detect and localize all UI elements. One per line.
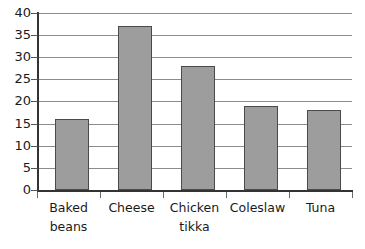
y-tick-mark-20 xyxy=(31,101,38,102)
y-tick-label-30: 30 xyxy=(1,50,31,63)
gridline-40 xyxy=(37,13,352,14)
gridline-35 xyxy=(37,35,352,36)
y-tick-mark-0 xyxy=(31,190,38,191)
x-axis-line xyxy=(37,190,353,192)
x-category-label-coleslaw: Coleslaw xyxy=(222,198,293,217)
y-tick-mark-25 xyxy=(31,79,38,80)
y-tick-label-35: 35 xyxy=(1,28,31,41)
y-tick-mark-35 xyxy=(31,35,38,36)
y-tick-mark-15 xyxy=(31,124,38,125)
y-tick-mark-30 xyxy=(31,57,38,58)
plot-area xyxy=(37,13,352,190)
gridline-30 xyxy=(37,57,352,58)
y-tick-label-25: 25 xyxy=(1,72,31,85)
bar-coleslaw xyxy=(244,106,278,190)
x-category-text: Baked beans xyxy=(49,200,88,234)
x-category-text: Coleslaw xyxy=(230,200,285,215)
y-tick-mark-40 xyxy=(31,13,38,14)
bar-chicken-tikka xyxy=(181,66,215,190)
y-tick-mark-10 xyxy=(31,146,38,147)
bar-tuna xyxy=(307,110,341,190)
x-category-label-tuna: Tuna xyxy=(285,198,356,217)
x-category-text: Tuna xyxy=(306,200,335,215)
x-category-label-baked-beans: Baked beans xyxy=(33,198,104,236)
bar-chart: 40 35 30 25 20 15 10 5 0 Baked beans Che… xyxy=(0,0,365,249)
y-tick-label-10: 10 xyxy=(1,139,31,152)
bar-baked-beans xyxy=(55,119,89,190)
y-tick-label-0: 0 xyxy=(1,183,31,196)
x-category-text: Cheese xyxy=(108,200,154,215)
y-tick-mark-5 xyxy=(31,168,38,169)
y-axis-line xyxy=(37,12,39,192)
x-category-label-cheese: Cheese xyxy=(96,198,167,217)
y-tick-label-5: 5 xyxy=(1,161,31,174)
y-tick-label-40: 40 xyxy=(1,6,31,19)
y-tick-label-20: 20 xyxy=(1,94,31,107)
bar-cheese xyxy=(118,26,152,190)
x-category-text: Chicken tikka xyxy=(170,200,219,234)
y-tick-label-15: 15 xyxy=(1,117,31,130)
x-category-label-chicken-tikka: Chicken tikka xyxy=(159,198,230,236)
